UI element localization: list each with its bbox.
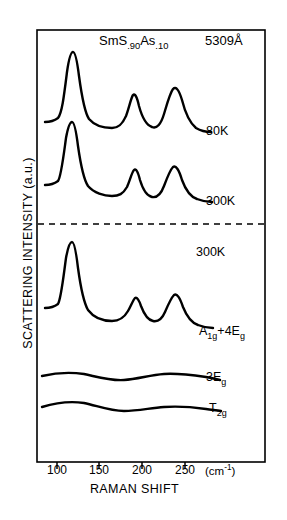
figure-svg <box>0 0 287 520</box>
mode-3e-sub: g <box>221 377 226 387</box>
mode-t-sub: 2g <box>217 408 227 418</box>
spectrum-curve-t2g <box>42 402 221 411</box>
formula-base-as: As <box>140 33 155 48</box>
curve-label-a1g-4eg: A1g+4Eg <box>199 324 245 341</box>
mode-3e: 3E <box>206 370 221 384</box>
unit-suffix: ) <box>232 465 236 477</box>
xtick-label-150: 150 <box>82 463 116 477</box>
unit-prefix: (cm <box>205 465 224 477</box>
spectrum-curve-300k-upper <box>45 122 212 202</box>
unit-exponent: -1 <box>224 463 231 472</box>
spectrum-curve-a1g-4eg <box>45 242 213 328</box>
curve-label-300k-upper: 300K <box>206 194 235 208</box>
xtick-label-100: 100 <box>40 463 74 477</box>
formula-base-sms: SmS <box>99 33 127 48</box>
mode-t: T <box>209 401 217 415</box>
formula-sub-90: .90 <box>127 41 140 51</box>
mode-plus-4e: +4E <box>217 324 240 338</box>
curve-label-300k-lower: 300K <box>196 245 225 259</box>
sample-formula-label: SmS.90As.10 <box>99 33 168 51</box>
x-axis-unit-label: (cm-1) <box>205 463 235 477</box>
raman-spectra-figure: SmS.90As.10 5309Å 80K 300K 300K A1g+4Eg … <box>0 0 287 520</box>
y-axis-title: SCATTERING INTENSITY (a.u.) <box>21 133 35 373</box>
xtick-label-250: 250 <box>168 463 202 477</box>
mode-e-sub: g <box>240 331 245 341</box>
spectrum-curve-3eg <box>42 373 220 380</box>
spectrum-curve-80k <box>45 52 211 132</box>
x-axis-ticks <box>57 462 185 469</box>
excitation-wavelength-label: 5309Å <box>205 33 243 48</box>
curve-label-t2g: T2g <box>209 401 227 418</box>
x-axis-title: RAMAN SHIFT <box>37 482 232 496</box>
mode-a-sub: 1g <box>207 331 217 341</box>
curve-label-3eg: 3Eg <box>206 370 226 387</box>
curve-label-80k: 80K <box>206 124 228 138</box>
formula-sub-10: .10 <box>155 41 168 51</box>
plot-frame <box>37 30 265 462</box>
xtick-label-200: 200 <box>125 463 159 477</box>
